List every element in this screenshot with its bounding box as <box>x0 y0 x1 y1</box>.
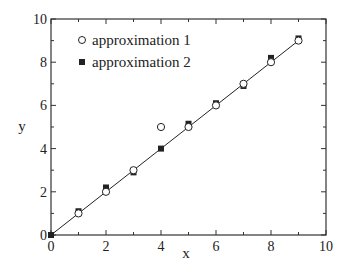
y-axis-label: y <box>18 118 26 134</box>
x-tick-label: 8 <box>268 239 275 254</box>
filled-square-marker-icon <box>158 146 164 152</box>
y-tick-label: 0 <box>40 228 47 243</box>
legend-filled-square-icon <box>79 59 85 65</box>
scatter-chart: 02468100246810 approximation 1 approxima… <box>0 0 349 268</box>
y-tick-label: 10 <box>33 12 47 27</box>
open-circle-marker-icon <box>295 37 302 44</box>
y-tick-label: 6 <box>40 98 47 113</box>
x-tick-label: 4 <box>158 239 165 254</box>
open-circle-marker-icon <box>75 210 82 217</box>
y-tick-label: 8 <box>40 55 47 70</box>
filled-square-marker-icon <box>48 232 54 238</box>
x-tick-label: 6 <box>213 239 220 254</box>
legend: approximation 1 approximation 2 <box>79 32 191 70</box>
y-tick-label: 2 <box>40 185 47 200</box>
open-circle-marker-icon <box>267 59 274 66</box>
open-circle-marker-icon <box>185 123 192 130</box>
legend-label-approximation-2: approximation 2 <box>92 54 191 70</box>
x-tick-label: 2 <box>103 239 110 254</box>
x-tick-label: 0 <box>48 239 55 254</box>
open-circle-marker-icon <box>212 102 219 109</box>
x-tick-label: 10 <box>319 239 333 254</box>
open-circle-marker-icon <box>240 80 247 87</box>
open-circle-marker-icon <box>157 123 164 130</box>
open-circle-marker-icon <box>102 188 109 195</box>
y-tick-label: 4 <box>40 142 47 157</box>
x-axis-label: x <box>182 245 190 261</box>
legend-label-approximation-1: approximation 1 <box>92 32 191 48</box>
legend-open-circle-icon <box>79 37 86 44</box>
open-circle-marker-icon <box>130 167 137 174</box>
